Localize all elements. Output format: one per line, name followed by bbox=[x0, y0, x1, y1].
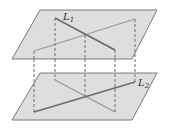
parallel-planes-diagram: L1 L2 bbox=[0, 0, 170, 132]
